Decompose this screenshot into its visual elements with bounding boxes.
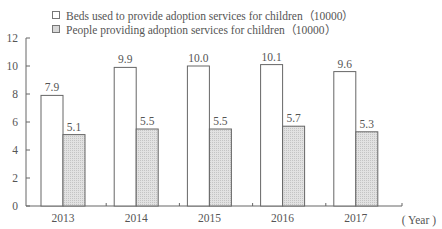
y-tick-label: 2 — [12, 172, 18, 184]
bar-value-label: 5.3 — [360, 118, 375, 130]
bar-people — [283, 126, 305, 206]
bar-chart: 024681012 7.95.120139.95.5201410.05.5201… — [0, 0, 442, 229]
bars — [41, 65, 378, 206]
y-tick-label: 6 — [12, 116, 18, 128]
bar-value-label: 5.7 — [286, 112, 301, 124]
bar-people — [136, 129, 158, 206]
bar-value-label: 10.0 — [188, 52, 208, 64]
x-category-label: 2015 — [198, 212, 221, 224]
x-category-label: 2014 — [125, 212, 148, 224]
bar-people — [209, 129, 231, 206]
x-category-label: 2017 — [344, 212, 367, 224]
bar-value-label: 5.1 — [67, 121, 82, 133]
x-axis-unit-label: ( Year ) — [402, 214, 436, 227]
bar-beds — [41, 95, 63, 206]
bar-beds — [114, 67, 136, 206]
bar-beds — [261, 65, 283, 206]
bar-value-label: 10.1 — [262, 51, 282, 63]
bar-value-label: 7.9 — [45, 81, 60, 93]
y-tick-label: 8 — [12, 88, 18, 100]
bar-value-label: 5.5 — [213, 115, 228, 127]
y-tick-label: 10 — [7, 60, 19, 72]
bar-beds — [187, 66, 209, 206]
x-category-label: 2013 — [52, 212, 75, 224]
bar-value-label: 5.5 — [140, 115, 155, 127]
bar-beds — [334, 72, 356, 206]
bar-people — [356, 132, 378, 206]
bar-value-label: 9.9 — [118, 53, 133, 65]
bar-value-label: 9.6 — [338, 58, 353, 70]
y-tick-label: 12 — [7, 32, 19, 44]
x-category-label: 2016 — [271, 212, 294, 224]
y-tick-label: 4 — [12, 144, 18, 156]
bar-people — [63, 135, 85, 206]
y-tick-label: 0 — [12, 200, 18, 212]
